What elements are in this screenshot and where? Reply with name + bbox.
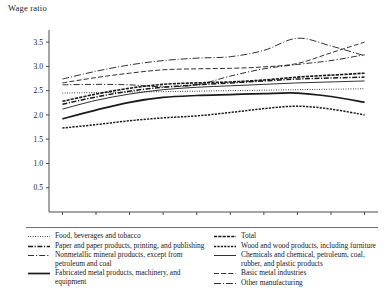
svg-text:1988: 1988 xyxy=(55,217,70,219)
svg-text:3.0: 3.0 xyxy=(34,62,44,71)
svg-text:1997: 1997 xyxy=(357,217,372,219)
legend-item: Food, beverages and tobacco xyxy=(28,232,208,241)
legend-item-label: Total xyxy=(241,232,386,241)
svg-text:1990: 1990 xyxy=(122,217,137,219)
legend-item-label: Chemicals and chemical, petroleum, coal,… xyxy=(241,251,386,268)
legend-item: Paper and paper products, printing, and … xyxy=(28,242,208,251)
legend-column-left: Food, beverages and tobaccoPaper and pap… xyxy=(28,232,208,288)
chart-plot-area: 0.51.01.52.02.53.03.5 198819891990199119… xyxy=(0,18,388,218)
series-line xyxy=(62,106,364,128)
svg-text:1994: 1994 xyxy=(256,217,271,219)
svg-text:1991: 1991 xyxy=(156,217,171,219)
series-line xyxy=(62,38,364,79)
legend-item-label: Paper and paper products, printing, and … xyxy=(55,242,208,251)
legend-column-right: TotalWood and wood products, including f… xyxy=(214,232,386,289)
chart-series-group xyxy=(62,38,364,128)
legend-swatch-icon xyxy=(28,251,50,260)
legend-swatch-icon xyxy=(214,242,236,251)
legend-item-label: Other manufacturing xyxy=(241,279,386,288)
y-axis-title: Wage ratio xyxy=(8,3,47,13)
legend-divider xyxy=(26,227,378,228)
legend-swatch-icon xyxy=(28,232,50,241)
legend-item: Basic metal industries xyxy=(214,269,386,278)
svg-text:2.5: 2.5 xyxy=(34,86,44,95)
svg-text:1996: 1996 xyxy=(323,217,338,219)
legend-item: Total xyxy=(214,232,386,241)
svg-text:1.0: 1.0 xyxy=(34,159,44,168)
legend-item: Nonmetallic mineral products, except fro… xyxy=(28,251,208,268)
svg-text:2.0: 2.0 xyxy=(34,111,44,120)
legend-item: Fabricated metal products, machinery, an… xyxy=(28,269,208,286)
legend-swatch-icon xyxy=(214,279,236,288)
y-axis-ticks: 0.51.01.52.02.53.03.5 xyxy=(34,38,50,193)
legend-item: Other manufacturing xyxy=(214,279,386,288)
legend-item-label: Wood and wood products, including furnit… xyxy=(241,242,386,251)
line-chart-svg: 0.51.01.52.02.53.03.5 198819891990199119… xyxy=(0,18,388,218)
legend-item: Chemicals and chemical, petroleum, coal,… xyxy=(214,251,386,268)
legend-swatch-icon xyxy=(214,232,236,241)
legend-swatch-icon xyxy=(214,269,236,278)
legend-swatch-icon xyxy=(28,242,50,251)
svg-text:1989: 1989 xyxy=(88,217,103,219)
legend-item-label: Basic metal industries xyxy=(241,269,386,278)
svg-text:0.5: 0.5 xyxy=(34,183,44,192)
legend-item-label: Food, beverages and tobacco xyxy=(55,232,208,241)
series-line xyxy=(62,42,364,83)
svg-text:3.5: 3.5 xyxy=(34,38,44,47)
legend-item: Wood and wood products, including furnit… xyxy=(214,242,386,251)
svg-text:1995: 1995 xyxy=(290,217,305,219)
chart-legend: Food, beverages and tobaccoPaper and pap… xyxy=(0,230,388,306)
svg-text:1.5: 1.5 xyxy=(34,135,44,144)
legend-item-label: Fabricated metal products, machinery, an… xyxy=(55,269,208,286)
x-axis-ticks: 1988198919901991199219931994199519961997 xyxy=(55,212,373,218)
legend-swatch-icon xyxy=(214,251,236,260)
svg-text:1992: 1992 xyxy=(189,217,204,219)
svg-text:1993: 1993 xyxy=(223,217,238,219)
legend-swatch-icon xyxy=(28,269,50,278)
series-line xyxy=(62,73,364,101)
legend-item-label: Nonmetallic mineral products, except fro… xyxy=(55,251,208,268)
